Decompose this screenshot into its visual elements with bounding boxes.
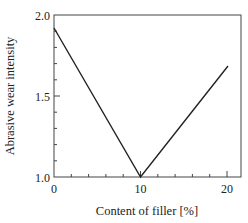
- y-axis-title: Abrasive wear intensity: [3, 36, 17, 155]
- y-tick-label: 2.0: [35, 9, 50, 23]
- x-tick-label: 20: [221, 182, 233, 196]
- chart: 2.0 1.5 1.0 0 10 20 Content of filler [%…: [0, 0, 248, 223]
- x-axis-ticks: [71, 171, 227, 177]
- wear-intensity-line: [54, 28, 228, 177]
- y-tick-label: 1.0: [35, 171, 50, 185]
- x-tick-label: 10: [135, 182, 147, 196]
- plot-frame: [54, 15, 241, 177]
- y-tick-label: 1.5: [35, 90, 50, 104]
- x-tick-label: 0: [51, 182, 57, 196]
- y-axis-ticks: [54, 31, 60, 161]
- x-axis-title: Content of filler [%]: [96, 204, 198, 218]
